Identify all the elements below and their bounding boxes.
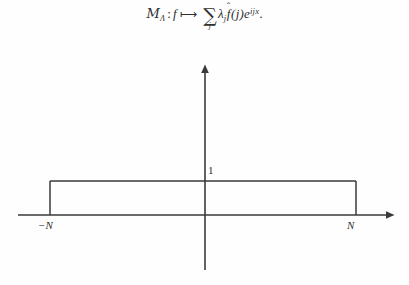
- y-value-label-one: 1: [208, 164, 214, 176]
- figure-page: MΛ:f⟼∑jλjˆf(j)eijx. −N N 1: [0, 0, 409, 285]
- x-tick-label-negative-n: −N: [38, 219, 53, 231]
- indicator-function-chart: [0, 0, 409, 285]
- x-tick-label-positive-n: N: [347, 219, 354, 231]
- x-axis: [18, 211, 395, 219]
- indicator-function-curve: [50, 181, 356, 215]
- y-axis-arrow-icon: [201, 65, 209, 74]
- x-axis-arrow-icon: [386, 211, 395, 219]
